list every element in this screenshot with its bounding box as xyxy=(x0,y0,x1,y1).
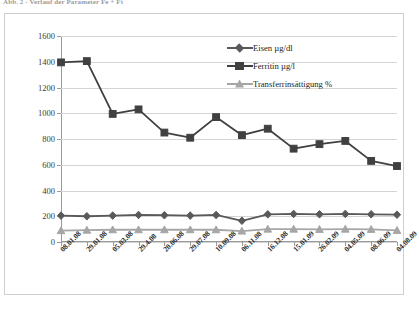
y-axis-tick-label: 800 xyxy=(42,135,55,144)
legend-marker-triangle-icon xyxy=(227,79,253,89)
data-point-marker xyxy=(212,211,219,219)
data-point-marker xyxy=(316,211,323,219)
y-axis-tick-label: 1400 xyxy=(38,57,55,66)
data-point-marker xyxy=(238,217,245,225)
legend-item: Transferrinsättigung % xyxy=(227,76,397,91)
data-point-marker xyxy=(290,145,297,152)
data-point-marker xyxy=(109,212,116,220)
data-point-marker xyxy=(83,212,90,220)
data-point-marker xyxy=(187,212,194,220)
data-point-marker xyxy=(161,211,168,219)
data-point-marker xyxy=(213,114,220,121)
chart-frame: 02004006008001000120014001600 08.01.0829… xyxy=(4,13,404,295)
data-point-marker xyxy=(316,141,323,148)
figure-caption: Abb. 2 - Verlauf der Parameter Fe + Ft xyxy=(3,0,203,8)
y-axis-tick-label: 1000 xyxy=(38,109,55,118)
data-point-marker xyxy=(58,59,65,66)
y-axis-tick-label: 1600 xyxy=(38,32,55,41)
y-axis-tick-label: 0 xyxy=(51,238,55,247)
data-point-marker xyxy=(393,211,400,219)
data-point-marker xyxy=(368,157,375,164)
legend-label: Eisen µg/dl xyxy=(253,43,293,53)
data-point-marker xyxy=(135,211,142,219)
chart-legend: Eisen µg/dlFerritin µg/lTransferrinsätti… xyxy=(227,40,397,94)
data-point-marker xyxy=(187,134,194,141)
data-point-marker xyxy=(264,125,271,132)
legend-marker-diamond-icon xyxy=(227,43,253,53)
series-transferrinsättigung xyxy=(57,225,401,234)
data-point-marker xyxy=(342,138,349,145)
y-axis-tick-label: 400 xyxy=(42,186,55,195)
data-point-marker xyxy=(342,210,349,218)
data-point-marker xyxy=(109,110,116,117)
y-axis-tick-label: 200 xyxy=(42,212,55,221)
data-point-marker xyxy=(239,132,246,139)
series-eisen xyxy=(57,210,400,224)
y-axis-tick-label: 600 xyxy=(42,160,55,169)
data-point-marker xyxy=(57,212,64,220)
data-point-marker xyxy=(368,211,375,219)
legend-item: Eisen µg/dl xyxy=(227,40,397,55)
data-point-marker xyxy=(161,129,168,136)
data-point-marker xyxy=(394,163,401,170)
data-point-marker xyxy=(135,106,142,113)
y-axis-tick-label: 1200 xyxy=(38,83,55,92)
legend-label: Transferrinsättigung % xyxy=(253,79,332,89)
data-point-marker xyxy=(290,210,297,218)
legend-marker-square-icon xyxy=(227,61,253,71)
data-point-marker xyxy=(264,211,271,219)
legend-item: Ferritin µg/l xyxy=(227,58,397,73)
legend-label: Ferritin µg/l xyxy=(253,61,295,71)
data-point-marker xyxy=(83,58,90,65)
